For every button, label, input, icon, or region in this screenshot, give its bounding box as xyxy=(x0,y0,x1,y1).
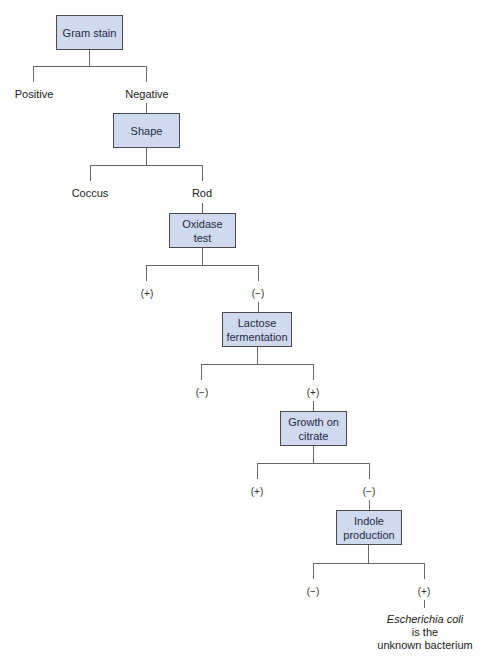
branch-label-oxidase-positive: (+) xyxy=(141,287,154,300)
connector xyxy=(146,265,147,281)
result-line3: unknown bacterium xyxy=(377,639,472,652)
result-organism: Escherichia coli xyxy=(377,613,472,626)
connector xyxy=(313,401,314,411)
connector xyxy=(146,66,147,82)
result-line2: is the xyxy=(377,626,472,639)
node-indole-production: Indole production xyxy=(336,510,402,545)
connector xyxy=(369,463,370,479)
connector xyxy=(313,446,314,463)
identification-flowchart: Gram stain Positive Negative Shape Coccu… xyxy=(0,0,481,659)
connector xyxy=(257,463,258,479)
node-label: Shape xyxy=(131,124,163,138)
node-label-line1: Lactose xyxy=(226,316,287,330)
connector xyxy=(90,165,203,166)
connector xyxy=(201,364,314,365)
connector xyxy=(313,563,425,564)
branch-label-rod: Rod xyxy=(192,187,212,200)
branch-label-citrate-negative: (−) xyxy=(363,485,376,498)
connector xyxy=(368,545,369,563)
branch-label-citrate-positive: (+) xyxy=(251,485,264,498)
connector xyxy=(257,347,258,364)
connector xyxy=(33,66,147,67)
node-label-line2: fermentation xyxy=(226,330,287,344)
node-label-line1: Growth on xyxy=(288,415,339,429)
node-lactose-fermentation: Lactose fermentation xyxy=(222,312,292,347)
node-shape: Shape xyxy=(113,113,180,148)
connector xyxy=(202,165,203,181)
node-label-line2: production xyxy=(343,528,394,542)
connector xyxy=(424,563,425,579)
node-growth-on-citrate: Growth on citrate xyxy=(280,411,347,446)
connector xyxy=(313,563,314,579)
result-conclusion: Escherichia coli is the unknown bacteriu… xyxy=(377,613,472,652)
node-label-line1: Indole xyxy=(343,514,394,528)
node-label-line1: Oxidase xyxy=(182,217,222,231)
branch-label-indole-negative: (−) xyxy=(307,585,320,598)
branch-label-negative: Negative xyxy=(125,88,168,101)
connector xyxy=(258,265,259,281)
connector xyxy=(258,302,259,312)
node-label: Gram stain xyxy=(63,26,117,40)
branch-label-positive: Positive xyxy=(15,88,54,101)
branch-label-indole-positive: (+) xyxy=(418,585,431,598)
connector xyxy=(201,364,202,380)
node-label-line2: test xyxy=(182,231,222,245)
connector xyxy=(89,50,90,66)
connector xyxy=(33,66,34,82)
connector xyxy=(202,203,203,213)
connector xyxy=(424,600,425,608)
branch-label-coccus: Coccus xyxy=(72,187,109,200)
branch-label-lactose-positive: (+) xyxy=(307,386,320,399)
connector xyxy=(90,165,91,181)
connector xyxy=(146,265,259,266)
connector xyxy=(313,364,314,380)
connector xyxy=(146,148,147,165)
branch-label-oxidase-negative: (−) xyxy=(252,287,265,300)
connector xyxy=(369,500,370,510)
connector xyxy=(202,248,203,265)
node-gram-stain: Gram stain xyxy=(56,15,123,50)
connector xyxy=(257,463,370,464)
connector xyxy=(146,103,147,113)
node-label-line2: citrate xyxy=(288,429,339,443)
node-oxidase-test: Oxidase test xyxy=(169,213,236,248)
branch-label-lactose-negative: (−) xyxy=(196,386,209,399)
